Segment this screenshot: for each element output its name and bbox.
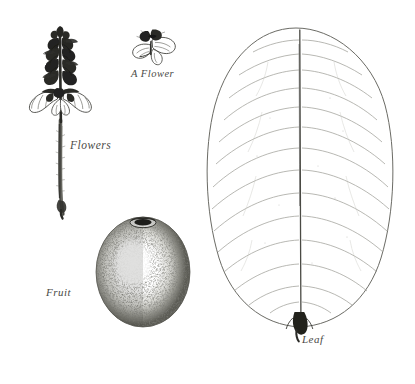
caption-fruit: Fruit bbox=[46, 286, 71, 298]
caption-a-flower: A Flower bbox=[131, 68, 174, 79]
flowering-spike-figure bbox=[0, 0, 415, 384]
caption-leaf: Leaf bbox=[302, 333, 324, 345]
botanical-plate: Flowers A Flower Fruit Leaf bbox=[0, 0, 415, 384]
spike-open-flowers bbox=[29, 88, 91, 115]
caption-flowers: Flowers bbox=[70, 139, 111, 151]
spike-stem bbox=[56, 120, 67, 219]
single-flower-figure bbox=[133, 29, 176, 64]
leaf-figure bbox=[207, 28, 393, 341]
fruit-figure bbox=[96, 217, 190, 330]
